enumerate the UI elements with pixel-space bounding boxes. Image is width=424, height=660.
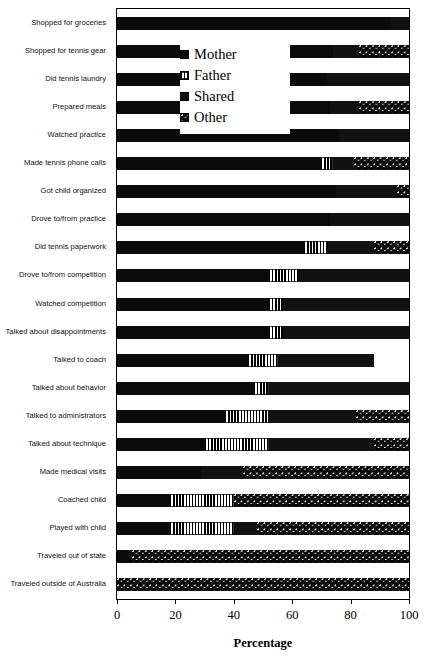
- bar-segment-other: [257, 522, 409, 535]
- x-axis-tick-label: 80: [344, 608, 357, 623]
- x-axis-tick-label: 100: [400, 608, 419, 623]
- bar-segment-shared: [330, 101, 359, 114]
- category-label: Coached child: [58, 496, 106, 504]
- x-axis-tick-label: 20: [169, 608, 182, 623]
- chart-legend: MotherFatherSharedOther: [180, 38, 290, 134]
- bar-segment-other: [359, 101, 409, 114]
- category-label: Got child organized: [41, 187, 106, 195]
- bar-segment-mother: [117, 269, 269, 282]
- bar-segment-mother: [117, 494, 170, 507]
- bar-segment-other: [243, 466, 409, 479]
- bar-segment-shared: [234, 522, 257, 535]
- bar-row: [117, 298, 409, 311]
- bar-segment-shared: [327, 73, 409, 86]
- x-axis-tick-label: 0: [114, 608, 120, 623]
- category-label: Shopped for tennis gear: [25, 47, 106, 55]
- bar-row: [117, 17, 409, 30]
- bar-segment-father: [304, 241, 327, 254]
- legend-label: Mother: [194, 47, 237, 62]
- category-label: Traveled out of state: [37, 552, 106, 560]
- bar-row: [117, 269, 409, 282]
- category-label: Talked to coach: [53, 356, 106, 364]
- bar-segment-mother: [117, 410, 225, 423]
- bar-segment-shared: [269, 382, 409, 395]
- bar-row: [117, 410, 409, 423]
- bar-segment-other: [359, 45, 409, 58]
- bar-segment-father: [205, 438, 269, 451]
- bar-segment-mother: [117, 185, 336, 198]
- bar-segment-father: [269, 298, 284, 311]
- x-axis-tick-label: 60: [286, 608, 299, 623]
- bar-segment-father: [248, 354, 277, 367]
- bar-segment-other: [132, 550, 409, 563]
- x-axis-tick: [117, 600, 118, 604]
- bar-segment-mother: [117, 213, 330, 226]
- category-label: Drove to/from competition: [19, 271, 106, 279]
- bar-segment-mother: [117, 157, 321, 170]
- x-axis-title: Percentage: [116, 636, 410, 651]
- legend-swatch-icon: [180, 113, 189, 122]
- bar-row: [117, 578, 409, 591]
- category-label: Made medical visits: [40, 468, 106, 476]
- category-label: Watched competition: [35, 300, 106, 308]
- bar-segment-mother: [117, 382, 254, 395]
- bar-segment-other: [374, 438, 409, 451]
- bar-segment-shared: [333, 157, 353, 170]
- legend-label: Shared: [194, 89, 234, 104]
- bar-row: [117, 326, 409, 339]
- bar-row: [117, 438, 409, 451]
- bar-segment-father: [321, 157, 333, 170]
- stacked-bar-chart: Shopped for groceriesShopped for tennis …: [0, 0, 424, 660]
- category-label: Traveled outside of Australia: [10, 580, 106, 588]
- legend-item-other: Other: [180, 107, 290, 128]
- category-label: Talked about behavior: [32, 384, 106, 392]
- bar-segment-shared: [202, 466, 243, 479]
- legend-label: Other: [194, 110, 227, 125]
- x-axis-tick-label: 40: [228, 608, 241, 623]
- category-label: Did tennis laundry: [45, 75, 106, 83]
- x-axis: 020406080100: [116, 600, 410, 601]
- bar-row: [117, 494, 409, 507]
- bar-segment-mother: [117, 522, 170, 535]
- bar-segment-shared: [269, 410, 357, 423]
- bar-segment-shared: [336, 185, 397, 198]
- bar-segment-father: [254, 382, 269, 395]
- category-label: Drove to/from practice: [31, 215, 106, 223]
- bar-segment-mother: [117, 438, 205, 451]
- bar-segment-mother: [117, 17, 391, 30]
- bar-segment-shared: [278, 354, 374, 367]
- bar-segment-shared: [327, 241, 374, 254]
- bar-segment-other: [374, 241, 409, 254]
- bar-segment-mother: [117, 550, 132, 563]
- legend-item-shared: Shared: [180, 86, 290, 107]
- bar-segment-father: [269, 269, 298, 282]
- legend-swatch-icon: [180, 50, 189, 59]
- bar-segment-father: [225, 410, 269, 423]
- bar-segment-shared: [298, 269, 409, 282]
- bar-segment-father: [269, 326, 284, 339]
- legend-label: Father: [194, 68, 231, 83]
- bar-segment-mother: [117, 354, 248, 367]
- legend-item-father: Father: [180, 65, 290, 86]
- bar-segment-other: [117, 578, 409, 591]
- bar-segment-other: [397, 185, 409, 198]
- bar-segment-other: [356, 410, 409, 423]
- bar-segment-shared: [391, 17, 409, 30]
- bar-row: [117, 382, 409, 395]
- bar-row: [117, 550, 409, 563]
- bar-segment-mother: [117, 241, 304, 254]
- legend-swatch-icon: [180, 71, 189, 80]
- category-label-column: Shopped for groceriesShopped for tennis …: [0, 8, 112, 600]
- bar-row: [117, 241, 409, 254]
- x-axis-tick: [175, 600, 176, 604]
- category-label: Watched practice: [48, 131, 106, 139]
- bar-segment-mother: [117, 326, 269, 339]
- bar-segment-other: [234, 494, 409, 507]
- legend-item-mother: Mother: [180, 44, 290, 65]
- category-label: Talked to administrators: [26, 412, 106, 420]
- x-axis-tick: [409, 600, 410, 604]
- bar-segment-mother: [117, 466, 202, 479]
- bar-row: [117, 185, 409, 198]
- category-label: Played with child: [49, 524, 106, 532]
- bar-segment-shared: [283, 298, 409, 311]
